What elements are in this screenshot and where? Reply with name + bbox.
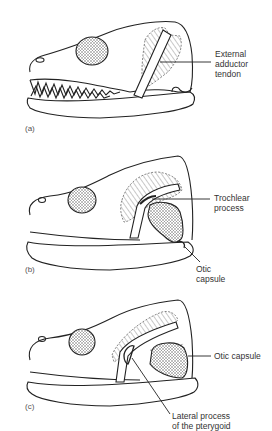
label-otic-capsule-c: Otic capsule xyxy=(214,351,261,361)
skull-b xyxy=(27,156,210,270)
label-line: Otic capsule xyxy=(214,351,261,361)
panel-label-b: (b) xyxy=(25,265,35,274)
label-line: Trochlear xyxy=(214,193,250,203)
label-line: capsule xyxy=(196,274,225,284)
label-line: External xyxy=(215,49,248,59)
label-line: tendon xyxy=(215,69,248,79)
label-line: Otic xyxy=(196,264,225,274)
label-line: of the pterygoid xyxy=(172,421,231,431)
label-lateral-process-pterygoid: Lateral process of the pterygoid xyxy=(172,411,231,431)
label-otic-capsule-b: Otic capsule xyxy=(196,264,225,284)
panel-label-c: (c) xyxy=(25,402,34,411)
label-external-adductor-tendon: External adductor tendon xyxy=(215,49,248,79)
label-line: adductor xyxy=(215,59,248,69)
skull-c xyxy=(27,300,211,414)
panel-label-a: (a) xyxy=(25,124,35,133)
label-line: Lateral process xyxy=(172,411,231,421)
label-line: process xyxy=(214,203,250,213)
label-trochlear-process: Trochlear process xyxy=(214,193,250,213)
skull-a xyxy=(27,21,211,118)
